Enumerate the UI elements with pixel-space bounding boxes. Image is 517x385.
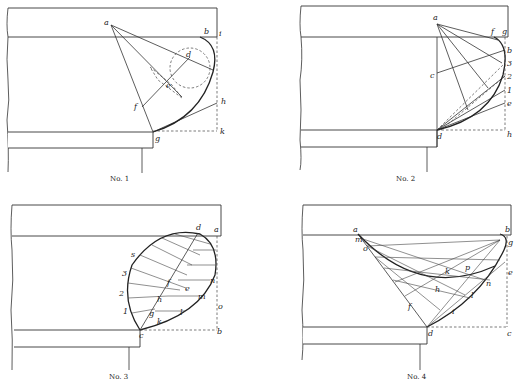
label-b: b <box>507 46 512 55</box>
caption-no2: No. 2 <box>396 175 415 183</box>
curve <box>128 232 217 330</box>
label-k: k <box>157 317 162 326</box>
label-1: 1 <box>123 307 128 316</box>
label-n: n <box>210 276 215 285</box>
label-c: c <box>507 329 512 338</box>
label-g: g <box>155 134 160 143</box>
label-o: o <box>218 302 223 311</box>
label-i: i <box>219 29 222 38</box>
label-o: o <box>363 244 368 253</box>
label-c: c <box>430 71 435 80</box>
label-h: h <box>507 130 512 139</box>
label-d: d <box>428 329 433 338</box>
label-c: c <box>139 331 144 340</box>
figure-2: a f g b 3 2 1 e c d h No. 2 <box>300 6 512 183</box>
label-1: 1 <box>507 86 512 95</box>
caption-no4: No. 4 <box>407 373 427 381</box>
label-3: 3 <box>122 269 127 278</box>
label-b: b <box>217 327 222 336</box>
upper-beam <box>301 6 508 37</box>
lower-beam <box>301 130 437 147</box>
lower-beam <box>303 327 427 344</box>
label-g: g <box>508 238 513 247</box>
label-d: d <box>186 50 191 59</box>
label-k: k <box>220 127 225 136</box>
label-a: a <box>104 18 109 27</box>
label-b: b <box>505 225 510 234</box>
label-m: m <box>198 292 206 301</box>
label-l: l <box>180 308 183 317</box>
upper-beam <box>8 8 217 37</box>
upper-beam <box>12 205 221 236</box>
label-h: h <box>435 285 440 294</box>
diagram-canvas: a b i d e f h g k No. 1 a f g b 3 2 <box>0 0 517 385</box>
label-d: d <box>196 223 201 232</box>
figure-1: a b i d e f h g k No. 1 <box>7 8 226 183</box>
label-g: g <box>149 309 154 318</box>
label-k: k <box>445 267 450 276</box>
label-a: a <box>353 225 358 234</box>
label-2: 2 <box>118 289 124 298</box>
label-2: 2 <box>506 72 512 81</box>
label-s: s <box>131 250 135 259</box>
label-l: l <box>471 291 474 300</box>
label-a: a <box>214 225 219 234</box>
lower-beam <box>8 132 153 148</box>
figure-4: a b m o g p k e n h l f i d c No. 4 <box>302 205 513 381</box>
label-i: i <box>452 307 455 316</box>
lower-beam <box>14 330 140 347</box>
upper-envelope <box>358 234 495 278</box>
label-h: h <box>221 97 226 106</box>
caption-no1: No. 1 <box>110 175 129 183</box>
curve <box>437 37 505 130</box>
upper-beam <box>303 205 511 235</box>
label-m: m <box>355 235 363 244</box>
label-e: e <box>508 268 513 277</box>
label-b: b <box>204 27 209 36</box>
label-n: n <box>486 279 491 288</box>
label-d: d <box>437 132 442 141</box>
label-a: a <box>433 13 438 22</box>
label-p: p <box>465 263 470 272</box>
label-f: f <box>133 102 139 111</box>
label-g: g <box>502 27 507 36</box>
label-h: h <box>157 295 162 304</box>
label-e: e <box>185 284 190 293</box>
label-e: e <box>166 81 171 90</box>
label-e: e <box>507 99 512 108</box>
caption-no3: No. 3 <box>109 373 128 381</box>
label-3: 3 <box>507 59 512 68</box>
figure-3: d a s 3 2 1 n f e m h o g l k c b No. 3 <box>11 205 223 381</box>
